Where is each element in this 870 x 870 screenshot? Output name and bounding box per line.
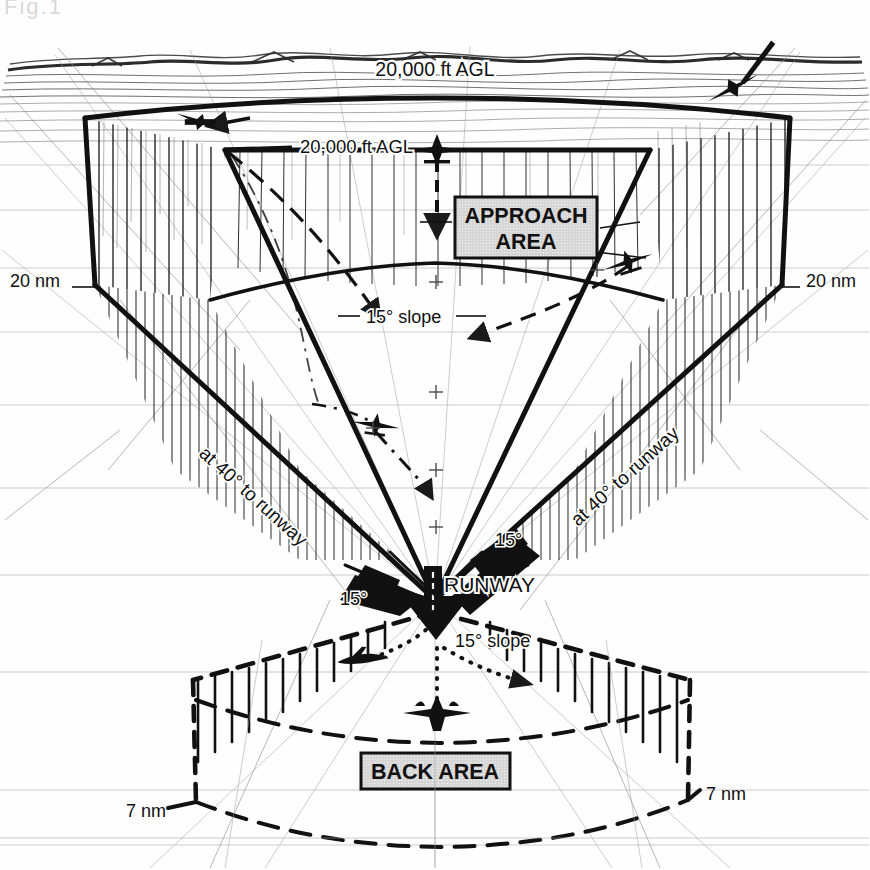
aircraft-approach-right-icon <box>600 243 657 282</box>
label-range-left-top: 20 nm <box>10 271 60 291</box>
label-slope-upper: 15° slope <box>366 307 441 327</box>
label-slope-lower: 15° slope <box>455 631 530 651</box>
label-range-right-top: 20 nm <box>806 271 856 291</box>
back-area-callout: BACK AREA <box>361 753 510 789</box>
approach-area-label-line2: AREA <box>496 230 557 254</box>
approach-area-callout: APPROACH AREA <box>455 197 597 258</box>
diagram-canvas: Fig.1 <box>0 0 870 870</box>
approach-area-label-line1: APPROACH <box>464 204 587 228</box>
aircraft-back-center-icon <box>403 695 471 731</box>
label-range-left-bottom: 7 nm <box>126 801 166 821</box>
approach-area-diagram: 20,000 ft AGL 20,000 ft AGL 20 nm 20 nm … <box>0 0 870 870</box>
back-area-outline <box>193 612 690 847</box>
label-runway: RUNWAY <box>444 573 535 596</box>
label-altitude-horizon: 20,000 ft AGL <box>375 58 494 80</box>
label-angle-left: 15° <box>340 589 367 609</box>
label-altitude-wedge: 20,000 ft AGL <box>300 136 413 157</box>
label-range-right-bottom: 7 nm <box>706 784 746 804</box>
label-angle-right: 15° <box>495 530 522 550</box>
